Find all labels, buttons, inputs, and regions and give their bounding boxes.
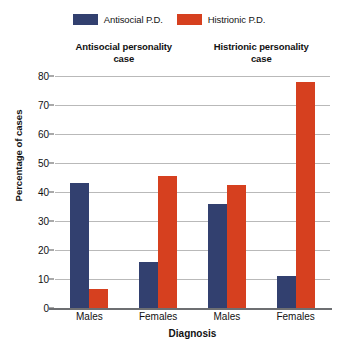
chart-plot-wrapper: Percentage of cases 80706050403020100 Ma…: [0, 0, 338, 346]
bar-antisocial-2: [208, 204, 227, 308]
bar-histrionic-0: [89, 289, 108, 308]
y-tick-mark-80: [49, 76, 54, 77]
y-tick-label-40: 40: [38, 187, 49, 198]
bar-group-0: [55, 76, 124, 308]
x-tick-label-0: Males: [55, 311, 124, 322]
y-tick-mark-40: [49, 192, 54, 193]
y-tick-label-30: 30: [38, 216, 49, 227]
y-tick-label-70: 70: [38, 100, 49, 111]
bar-histrionic-3: [296, 82, 315, 308]
bar-histrionic-1: [158, 176, 177, 308]
bar-group-3: [261, 76, 330, 308]
y-tick-mark-10: [49, 279, 54, 280]
bar-series-container: [55, 76, 330, 308]
bar-histrionic-2: [227, 185, 246, 308]
x-axis-title: Diagnosis: [55, 328, 330, 339]
plot-area: 80706050403020100: [55, 76, 330, 308]
y-tick-label-80: 80: [38, 71, 49, 82]
bar-antisocial-1: [139, 262, 158, 308]
bar-antisocial-0: [70, 183, 89, 308]
y-tick-mark-50: [49, 163, 54, 164]
y-tick-mark-30: [49, 221, 54, 222]
x-axis-line: [49, 308, 332, 310]
y-tick-label-60: 60: [38, 129, 49, 140]
y-tick-label-50: 50: [38, 158, 49, 169]
y-axis-title: Percentage of cases: [13, 86, 24, 226]
y-tick-mark-70: [49, 105, 54, 106]
y-tick-label-20: 20: [38, 245, 49, 256]
x-axis-tick-labels: MalesFemalesMalesFemales: [55, 311, 330, 322]
x-tick-label-1: Females: [124, 311, 193, 322]
bar-group-2: [193, 76, 262, 308]
x-tick-label-2: Males: [193, 311, 262, 322]
bar-antisocial-3: [277, 276, 296, 308]
y-tick-label-10: 10: [38, 274, 49, 285]
bar-group-1: [124, 76, 193, 308]
y-tick-mark-60: [49, 134, 54, 135]
y-tick-mark-20: [49, 250, 54, 251]
x-tick-label-3: Females: [261, 311, 330, 322]
